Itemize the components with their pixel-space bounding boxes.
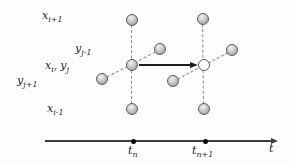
- arrow-head-icon: [190, 62, 198, 68]
- label-x-i-plus-1: xi+1: [42, 10, 63, 21]
- node-y-j+1-tn+1: [167, 75, 179, 87]
- time-axis-line: [45, 140, 272, 141]
- label-y-j-plus-1: yj+1: [17, 75, 38, 86]
- finite-difference-stencil-figure: xi+1 yj-1 xi,yj yj+1 xi-1 tn tn+1 t: [0, 0, 290, 164]
- label-subscript: j: [67, 65, 69, 74]
- node-x-i+1-tn+1: [197, 13, 209, 25]
- label-subscript: j+1: [23, 80, 37, 89]
- node-x-i-1-tn: [126, 103, 138, 115]
- time-step-arrow-line: [139, 64, 192, 65]
- node-center-tn: [126, 59, 138, 71]
- label-subscript: n+1: [196, 150, 213, 159]
- node-x-i-1-tn+1: [198, 103, 210, 115]
- time-tick-dot: [203, 139, 208, 144]
- label-subscript: i-1: [53, 108, 63, 117]
- label-subscript: j-1: [81, 48, 91, 57]
- node-y-j+1-tn: [96, 73, 108, 85]
- label-y-j-minus-1: yj-1: [75, 43, 92, 54]
- node-y-j-1-tn+1: [226, 44, 238, 56]
- label-subscript: i+1: [48, 15, 62, 24]
- label-base: t: [269, 142, 273, 155]
- node-center-tn+1: [198, 59, 210, 71]
- label-x-i-minus-1: xi-1: [47, 103, 64, 114]
- label-t-n-plus-1: tn+1: [192, 145, 213, 156]
- time-tick-dot: [131, 139, 136, 144]
- label-t-n: tn: [128, 145, 138, 156]
- node-y-j-1-tn: [154, 43, 166, 55]
- node-x-i+1-tn: [126, 14, 138, 26]
- label-t-axis: t: [269, 143, 273, 154]
- label-subscript: n: [132, 150, 137, 159]
- label-x-i-y-j: xi,yj: [45, 60, 69, 71]
